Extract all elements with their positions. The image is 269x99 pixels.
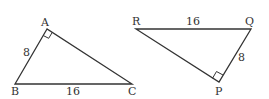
side-label-rq: 16 (186, 15, 200, 28)
triangle-pqr-shape (136, 29, 251, 82)
vertex-label-p: P (215, 85, 223, 98)
diagram: A B C 8 16 R Q P 16 8 (0, 0, 269, 99)
side-label-ab: 8 (23, 46, 30, 59)
vertex-label-r: R (132, 15, 141, 28)
triangle-abc: A B C 8 16 (11, 16, 136, 98)
triangle-abc-shape (15, 29, 132, 84)
side-label-qp: 8 (238, 51, 245, 64)
vertex-label-c: C (128, 85, 136, 98)
vertex-label-b: B (11, 85, 19, 98)
vertex-label-a: A (40, 16, 50, 29)
vertex-label-q: Q (245, 15, 254, 28)
triangle-pqr: R Q P 16 8 (132, 15, 254, 98)
side-label-bc: 16 (66, 85, 80, 98)
